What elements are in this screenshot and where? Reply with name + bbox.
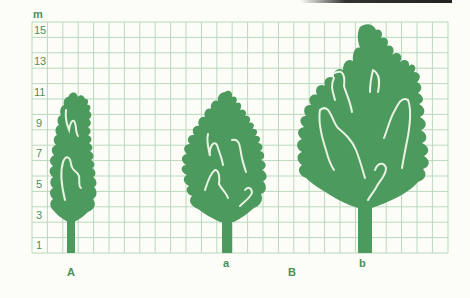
- canopy: [182, 91, 267, 222]
- y-label-11: 11: [34, 86, 45, 98]
- label-a: a: [223, 257, 230, 269]
- y-label-15: 15: [34, 24, 46, 36]
- y-label-7: 7: [36, 147, 42, 159]
- unit-label: m: [33, 8, 43, 20]
- tree-A: [50, 93, 97, 253]
- height-diagram: m 15 13 11 9 7 5 3 1 A a B b: [0, 0, 470, 298]
- tree-b: [297, 24, 429, 253]
- trunk: [222, 220, 232, 253]
- y-label-13: 13: [34, 55, 46, 67]
- trunk: [358, 206, 372, 253]
- y-label-9: 9: [36, 117, 42, 129]
- canopy: [297, 24, 429, 208]
- y-label-5: 5: [36, 178, 42, 190]
- tree-a: [182, 91, 267, 253]
- canopy: [50, 93, 97, 222]
- label-A: A: [67, 266, 75, 278]
- y-label-1: 1: [36, 239, 42, 251]
- y-label-3: 3: [36, 209, 42, 221]
- label-b: b: [359, 257, 366, 269]
- label-B: B: [288, 266, 296, 278]
